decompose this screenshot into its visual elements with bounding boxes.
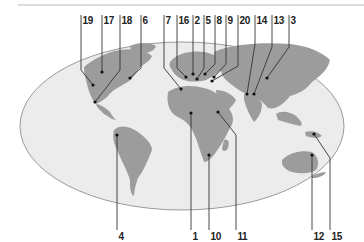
location-marker-16 (184, 75, 187, 78)
location-marker-19 (91, 83, 94, 86)
location-marker-13 (252, 92, 255, 95)
location-marker-1 (189, 111, 192, 114)
location-marker-9 (212, 75, 215, 78)
location-label-8: 8 (217, 15, 223, 26)
location-marker-10 (207, 153, 210, 156)
location-label-3: 3 (291, 15, 297, 26)
location-label-19: 19 (83, 15, 94, 26)
location-marker-5 (195, 77, 198, 80)
location-label-12: 12 (314, 231, 325, 242)
location-label-14: 14 (257, 15, 268, 26)
location-label-10: 10 (211, 231, 222, 242)
location-label-7: 7 (166, 15, 172, 26)
location-label-15: 15 (332, 231, 343, 242)
location-label-6: 6 (143, 15, 149, 26)
location-label-4: 4 (119, 231, 125, 242)
location-marker-14 (245, 92, 248, 95)
location-label-13: 13 (274, 15, 285, 26)
world-map: 1917186716258920141334110111215 (0, 0, 364, 242)
location-marker-20 (210, 79, 213, 82)
location-marker-4 (115, 133, 118, 136)
location-marker-7 (179, 87, 182, 90)
location-label-20: 20 (240, 15, 251, 26)
location-label-1: 1 (193, 231, 199, 242)
location-marker-8 (203, 72, 206, 75)
location-label-5: 5 (206, 15, 212, 26)
location-marker-2 (191, 72, 194, 75)
location-marker-15 (312, 132, 315, 135)
location-marker-3 (265, 76, 268, 79)
location-marker-12 (310, 153, 313, 156)
location-label-18: 18 (122, 15, 133, 26)
location-marker-11 (216, 110, 219, 113)
location-marker-17 (100, 70, 103, 73)
location-label-11: 11 (238, 231, 249, 242)
location-marker-18 (93, 100, 96, 103)
location-label-2: 2 (195, 15, 201, 26)
location-label-16: 16 (179, 15, 190, 26)
location-label-9: 9 (228, 15, 234, 26)
location-label-17: 17 (104, 15, 115, 26)
location-marker-6 (128, 76, 131, 79)
